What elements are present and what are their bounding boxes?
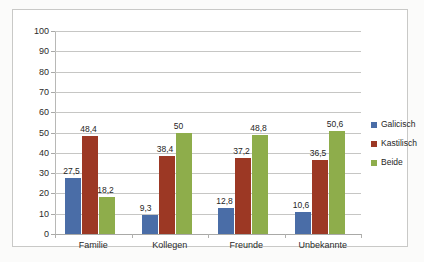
y-axis-labels: 1009080706050403020100 [21, 10, 49, 248]
y-axis-tick [51, 51, 55, 52]
bar-beide-freunde[interactable] [252, 135, 268, 234]
legend-swatch-icon [371, 122, 377, 128]
legend-item-beide[interactable]: Beide [371, 158, 419, 167]
y-axis-tick-label: 90 [23, 47, 49, 56]
bar-galicisch-familie[interactable] [65, 178, 81, 234]
x-axis-category-label: Kollegen [132, 240, 209, 250]
bar-value-label: 37,2 [233, 147, 250, 156]
bar-group: 9,338,450 [132, 31, 209, 234]
x-axis-category-label: Familie [55, 240, 132, 250]
x-axis-tick [208, 234, 209, 238]
bar-group: 27,548,418,2 [55, 31, 132, 234]
y-axis-tick [51, 92, 55, 93]
bar-kastilisch-unbekannte[interactable] [312, 160, 328, 234]
chart-legend: GalicischKastilischBeide [371, 120, 419, 177]
y-axis-tick-label: 100 [23, 27, 49, 36]
legend-item-label: Beide [381, 158, 403, 167]
bar-beide-unbekannte[interactable] [329, 131, 345, 234]
bar-value-label: 27,5 [63, 167, 80, 176]
legend-item-galicisch[interactable]: Galicisch [371, 120, 419, 129]
legend-item-label: Galicisch [381, 120, 415, 129]
y-axis-tick [51, 112, 55, 113]
x-axis-tick [285, 234, 286, 238]
y-axis-tick [51, 173, 55, 174]
bar-beide-familie[interactable] [99, 197, 115, 234]
y-axis-tick-label: 10 [23, 210, 49, 219]
y-axis-tick-label: 30 [23, 169, 49, 178]
bar-value-label: 10,6 [293, 201, 310, 210]
bar-galicisch-freunde[interactable] [218, 208, 234, 234]
bar-group: 10,636,550,6 [285, 31, 362, 234]
x-axis-tick [361, 234, 362, 238]
bar-value-label: 36,5 [310, 149, 327, 158]
x-axis-tick [132, 234, 133, 238]
y-axis-tick-label: 50 [23, 129, 49, 138]
x-axis-category-label: Unbekannte [285, 240, 362, 250]
bar-kastilisch-familie[interactable] [82, 136, 98, 234]
y-axis-tick-label: 80 [23, 68, 49, 77]
y-axis-tick-label: 0 [23, 230, 49, 239]
y-axis-tick-label: 20 [23, 189, 49, 198]
scanned-page: 1009080706050403020100 27,548,418,29,338… [0, 0, 424, 262]
bar-kastilisch-kollegen[interactable] [159, 156, 175, 234]
y-axis-tick [51, 153, 55, 154]
plot-area: 27,548,418,29,338,45012,837,248,810,636,… [55, 31, 361, 234]
y-axis-tick [51, 31, 55, 32]
y-axis-tick-label: 70 [23, 88, 49, 97]
y-axis-tick [51, 193, 55, 194]
legend-swatch-icon [371, 141, 377, 147]
x-axis-tick [55, 234, 56, 238]
bar-galicisch-kollegen[interactable] [142, 215, 158, 234]
y-axis-tick-label: 60 [23, 108, 49, 117]
bar-group: 12,837,248,8 [208, 31, 285, 234]
chart-frame: 1009080706050403020100 27,548,418,29,338… [12, 9, 408, 247]
bar-kastilisch-freunde[interactable] [235, 158, 251, 234]
bar-value-label: 38,4 [157, 145, 174, 154]
legend-swatch-icon [371, 160, 377, 166]
bar-value-label: 18,2 [97, 186, 114, 195]
bar-value-label: 48,8 [250, 124, 267, 133]
bar-value-label: 12,8 [216, 197, 233, 206]
bar-value-label: 50,6 [327, 120, 344, 129]
bar-value-label: 48,4 [80, 125, 97, 134]
bar-beide-kollegen[interactable] [176, 133, 192, 235]
y-axis-tick [51, 133, 55, 134]
y-axis-tick-label: 40 [23, 149, 49, 158]
x-axis-category-label: Freunde [208, 240, 285, 250]
bar-value-label: 9,3 [140, 204, 152, 213]
legend-item-kastilisch[interactable]: Kastilisch [371, 139, 419, 148]
legend-item-label: Kastilisch [381, 139, 417, 148]
bar-galicisch-unbekannte[interactable] [295, 212, 311, 234]
y-axis-tick [51, 214, 55, 215]
bar-value-label: 50 [174, 122, 183, 131]
y-axis-tick [51, 72, 55, 73]
